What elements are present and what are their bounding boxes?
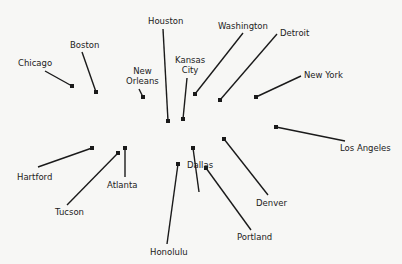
hartford-leader-line — [38, 148, 92, 167]
los-angeles-marker — [274, 125, 278, 129]
new-orleans-marker — [141, 95, 145, 99]
chicago-label: Chicago — [18, 58, 52, 68]
boston-marker — [94, 90, 98, 94]
chicago-marker — [70, 84, 74, 88]
houston-label: Houston — [148, 16, 183, 26]
hartford-label: Hartford — [17, 172, 52, 182]
new-york-label: New York — [304, 70, 343, 80]
new-orleans-label: NewOrleans — [126, 66, 159, 86]
dallas-label: Dallas — [187, 160, 213, 170]
honolulu-label: Honolulu — [150, 247, 188, 257]
atlanta-label: Atlanta — [107, 180, 138, 190]
boston-leader-line — [82, 52, 96, 92]
kansas-city-leader-line — [183, 78, 187, 119]
detroit-leader-line — [220, 34, 277, 100]
new-york-marker — [254, 95, 258, 99]
honolulu-leader-line — [167, 164, 178, 244]
kansas-city-label: KansasCity — [175, 55, 205, 75]
washington-label: Washington — [218, 21, 268, 31]
portland-leader-line — [206, 168, 251, 230]
washington-marker — [193, 92, 197, 96]
houston-marker — [166, 119, 170, 123]
tucson-marker — [116, 151, 120, 155]
los-angeles-label: Los Angeles — [340, 143, 391, 153]
denver-label: Denver — [256, 198, 287, 208]
chicago-leader-line — [45, 71, 72, 86]
hartford-marker — [90, 146, 94, 150]
detroit-label: Detroit — [280, 28, 309, 38]
new-york-leader-line — [256, 76, 301, 97]
detroit-marker — [218, 98, 222, 102]
denver-leader-line — [224, 139, 268, 195]
atlanta-marker — [123, 146, 127, 150]
connector-layer — [0, 0, 402, 264]
honolulu-marker — [176, 162, 180, 166]
kansas-city-marker — [181, 117, 185, 121]
boston-label: Boston — [70, 40, 99, 50]
tucson-leader-line — [67, 153, 118, 205]
dallas-marker — [191, 146, 195, 150]
los-angeles-leader-line — [276, 127, 345, 141]
dallas-leader-line — [193, 148, 199, 192]
denver-marker — [222, 137, 226, 141]
tucson-label: Tucson — [55, 207, 84, 217]
houston-leader-line — [163, 29, 168, 121]
portland-label: Portland — [237, 232, 272, 242]
